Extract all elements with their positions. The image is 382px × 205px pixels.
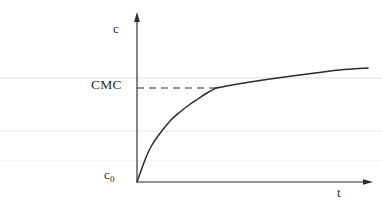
plot-canvas — [0, 0, 382, 205]
cmc-threshold-label: CMC — [91, 78, 122, 92]
initial-concentration-label: c0 — [104, 168, 114, 184]
y-axis-arrow-icon — [134, 12, 140, 22]
concentration-curve — [137, 88, 216, 182]
x-axis-arrow-icon — [363, 179, 373, 185]
x-axis-label: t — [337, 186, 341, 199]
initial-concentration-symbol: c — [104, 167, 110, 182]
initial-concentration-subscript: 0 — [110, 174, 115, 184]
y-axis-label: c — [113, 22, 119, 35]
post-cmc-curve — [216, 68, 368, 88]
figure-root: c t CMC c0 — [0, 0, 382, 205]
